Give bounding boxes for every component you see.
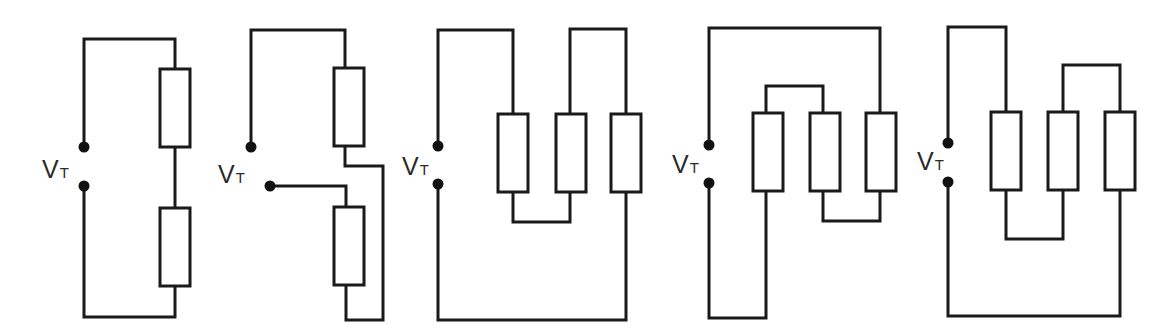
circuit-1: VT xyxy=(42,39,190,317)
resistor-3-icon xyxy=(866,113,896,191)
resistor-2-icon xyxy=(810,113,840,191)
wire xyxy=(1006,190,1063,239)
circuit-5: VT xyxy=(917,27,1135,316)
resistor-1-icon xyxy=(160,69,190,147)
terminal-negative-icon xyxy=(79,181,90,192)
terminal-negative-icon xyxy=(433,179,444,190)
resistor-1-icon xyxy=(498,114,528,192)
terminal-negative-icon xyxy=(265,181,276,192)
circuit-diagrams: VT VT VT VT VT xyxy=(0,0,1170,336)
terminal-negative-icon xyxy=(704,178,715,189)
resistor-2-icon xyxy=(556,114,586,192)
voltage-label: VT xyxy=(672,150,699,178)
wire xyxy=(766,86,823,113)
resistor-2-icon xyxy=(160,208,190,286)
resistor-3-icon xyxy=(611,114,641,192)
resistor-2-icon xyxy=(334,207,364,285)
terminal-positive-icon xyxy=(704,140,715,151)
circuit-4: VT xyxy=(672,28,896,318)
terminal-negative-icon xyxy=(943,177,954,188)
terminal-positive-icon xyxy=(943,138,954,149)
wire xyxy=(513,192,570,222)
wire xyxy=(709,183,766,318)
wire xyxy=(570,29,626,114)
resistor-2-icon xyxy=(1048,112,1078,190)
wire xyxy=(251,30,345,147)
voltage-label: VT xyxy=(218,160,245,188)
wire xyxy=(823,191,880,221)
circuit-3: VT xyxy=(402,29,641,320)
wire xyxy=(1063,65,1120,112)
circuit-2: VT xyxy=(218,30,383,320)
terminal-positive-icon xyxy=(246,142,257,153)
wire xyxy=(948,182,1120,316)
resistor-1-icon xyxy=(991,112,1021,190)
voltage-label: VT xyxy=(42,155,69,183)
terminal-positive-icon xyxy=(79,142,90,153)
voltage-label: VT xyxy=(917,147,944,175)
resistor-1-icon xyxy=(753,113,783,191)
voltage-label: VT xyxy=(402,152,429,180)
wire xyxy=(438,184,626,320)
terminal-positive-icon xyxy=(433,141,444,152)
wire xyxy=(270,186,346,207)
resistor-1-icon xyxy=(334,68,364,146)
resistor-3-icon xyxy=(1105,112,1135,190)
